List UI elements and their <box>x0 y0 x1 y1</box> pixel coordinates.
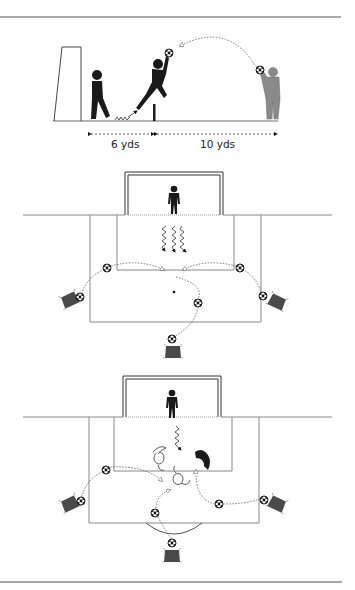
panel-side-view: 6 yds 10 yds <box>53 37 280 150</box>
distance-markers: 6 yds 10 yds <box>91 134 277 150</box>
distance-label-10yds: 10 yds <box>200 138 235 150</box>
distance-label-6yds: 6 yds <box>111 138 139 150</box>
panel-top-view-2 <box>23 376 332 562</box>
drill-diagram: 6 yds 10 yds <box>0 0 355 590</box>
standing-keeper-figure <box>91 70 110 119</box>
panel-top-view-1 <box>23 172 332 358</box>
keeper-icon <box>168 186 180 214</box>
jumping-keeper-figure <box>136 56 169 110</box>
server-figure <box>260 68 280 120</box>
keeper-icon <box>166 390 178 418</box>
